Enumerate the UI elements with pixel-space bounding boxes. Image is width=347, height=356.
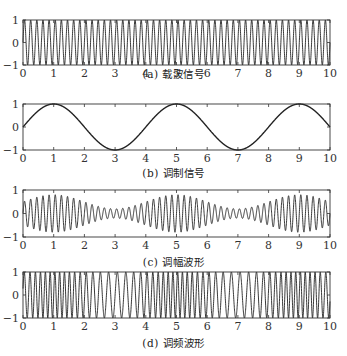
x-tick-label: 6	[204, 152, 211, 165]
x-tick-label: 3	[112, 239, 119, 252]
x-tick-label: 0	[20, 239, 27, 252]
x-tick-label: 8	[265, 152, 272, 165]
caption-c: (c) 调幅波形	[0, 254, 347, 269]
caption-b: (b) 调制信号	[0, 165, 347, 180]
caption-a: (a) 载波信号	[0, 66, 347, 81]
y-tick-label: 0	[12, 289, 19, 302]
x-tick-label: 5	[173, 320, 180, 333]
x-tick-label: 1	[50, 239, 57, 252]
x-tick-label: 4	[142, 152, 149, 165]
x-tick-label: 9	[296, 320, 303, 333]
x-tick-label: 0	[20, 320, 27, 333]
x-tick-label: 4	[142, 239, 149, 252]
x-tick-label: 6	[204, 320, 211, 333]
y-tick-label: 1	[12, 184, 19, 197]
y-tick-label: −1	[3, 312, 19, 325]
y-tick-label: 0	[12, 208, 19, 221]
x-tick-label: 2	[81, 320, 88, 333]
x-tick-label: 8	[265, 239, 272, 252]
x-tick-label: 3	[112, 320, 119, 333]
x-tick-label: 7	[234, 152, 241, 165]
x-tick-label: 10	[323, 320, 337, 333]
x-tick-label: 1	[50, 152, 57, 165]
signal-line-a	[23, 20, 330, 65]
y-tick-label: −1	[3, 144, 19, 157]
x-tick-label: 0	[20, 152, 27, 165]
signal-line-d	[23, 272, 330, 318]
x-tick-label: 4	[142, 320, 149, 333]
y-tick-label: 0	[12, 121, 19, 134]
y-tick-label: 1	[12, 98, 19, 111]
y-tick-label: 1	[12, 14, 19, 27]
caption-d: (d) 调频波形	[0, 335, 347, 350]
x-tick-label: 10	[323, 152, 337, 165]
x-tick-label: 3	[112, 152, 119, 165]
signal-line-b	[23, 104, 330, 150]
x-tick-label: 9	[296, 152, 303, 165]
y-tick-label: −1	[3, 231, 19, 244]
signal-line-c	[23, 195, 330, 233]
x-tick-label: 1	[50, 320, 57, 333]
x-tick-label: 10	[323, 239, 337, 252]
x-tick-label: 5	[173, 152, 180, 165]
x-tick-label: 6	[204, 239, 211, 252]
x-tick-label: 7	[234, 239, 241, 252]
x-tick-label: 8	[265, 320, 272, 333]
x-tick-label: 2	[81, 152, 88, 165]
x-tick-label: 2	[81, 239, 88, 252]
x-tick-label: 9	[296, 239, 303, 252]
x-tick-label: 7	[234, 320, 241, 333]
x-tick-label: 5	[173, 239, 180, 252]
y-tick-label: 0	[12, 37, 19, 50]
